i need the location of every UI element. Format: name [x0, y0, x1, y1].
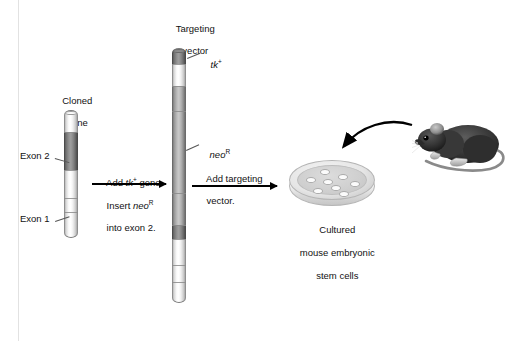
vector-segment-8	[172, 265, 186, 282]
cloned-gene-exon1-segment	[64, 198, 78, 212]
tk-gene-label: tk+	[200, 48, 222, 81]
vector-divider-6	[172, 239, 186, 240]
targeting-vector-bar	[172, 48, 186, 303]
neo-gene-text: neo	[210, 149, 226, 160]
vector-segment-9	[172, 282, 186, 303]
mouse-ear	[430, 123, 444, 135]
vector-divider-3	[172, 111, 186, 112]
step2-arrow	[192, 185, 277, 187]
targeting-vector-label-line1: Targeting	[176, 23, 215, 34]
vector-divider-1	[172, 64, 186, 65]
vector-divider-4	[172, 193, 186, 194]
step1-arrow	[92, 183, 166, 185]
figure-frame-line	[18, 0, 19, 341]
cultured-cells-line1: Cultured	[319, 224, 355, 235]
vector-neo-segment	[172, 111, 186, 193]
vector-divider-8	[172, 282, 186, 283]
stem-cell	[339, 191, 349, 197]
cloned-gene-label-line1: Cloned	[62, 95, 92, 106]
mouse-illustration	[412, 116, 510, 178]
mouse-haunch	[463, 135, 497, 163]
stem-cell	[350, 181, 360, 187]
neo-leader-line	[186, 144, 199, 151]
neo-italic-1: neo	[133, 200, 149, 211]
stem-cell	[320, 169, 330, 175]
vector-segment-3	[172, 86, 186, 111]
vector-top-ellipse	[173, 49, 185, 53]
step2-arrow-text: Add targeting vector.	[196, 162, 263, 217]
cloned-gene-divider-3	[64, 198, 78, 199]
step2-text-line2: vector.	[207, 195, 235, 206]
vector-segment-2	[172, 64, 186, 86]
step2-text-line1: Add targeting	[206, 173, 263, 184]
cloned-gene-top-ellipse	[65, 111, 77, 115]
exon1-label: Exon 1	[20, 213, 50, 224]
step1-arrow-text-below: Insert neoR into exon 2.	[96, 189, 156, 244]
mouse-eye	[423, 136, 428, 141]
cloned-gene-bar	[64, 110, 78, 238]
cloned-gene-divider-4	[64, 212, 78, 213]
vector-segment-5	[172, 193, 186, 225]
cultured-cells-line2: mouse embryonic	[300, 247, 375, 258]
vector-segment-7	[172, 239, 186, 265]
cloned-gene-divider-1	[64, 132, 78, 133]
vector-segment-6	[172, 225, 186, 239]
gene-targeting-diagram: Cloned gene Exon 2 Exon 1 Add tk+ gene. …	[0, 0, 515, 341]
stem-cell	[313, 188, 323, 194]
cultured-cells-line3: stem cells	[316, 270, 358, 281]
stem-cell	[306, 177, 316, 183]
vector-divider-2	[172, 86, 186, 87]
stem-cell	[331, 185, 341, 191]
mouse-hind-foot	[450, 158, 467, 166]
cloned-gene-segment-3	[64, 170, 78, 198]
cloned-gene-segment-5	[64, 212, 78, 238]
mouse-eye-glint	[424, 136, 426, 138]
cloned-gene-exon2-segment	[64, 132, 78, 170]
vector-divider-7	[172, 265, 186, 266]
stem-cell	[323, 179, 333, 185]
cultured-cells-label: Cultured mouse embryonic stem cells	[275, 212, 389, 293]
cloned-gene-divider-2	[64, 170, 78, 171]
vector-divider-5	[172, 225, 186, 226]
exon2-label: Exon 2	[20, 150, 50, 161]
tk-gene-text: tk	[211, 59, 218, 70]
